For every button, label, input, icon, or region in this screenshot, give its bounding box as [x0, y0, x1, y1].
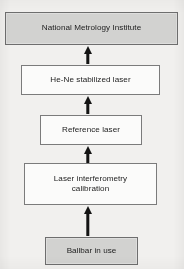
arrow-reference-to-hene-icon: [81, 96, 95, 114]
node-label: Reference laser: [60, 125, 122, 135]
node-he-ne-stabilized-laser[interactable]: He-Ne stabilized laser: [21, 65, 160, 95]
node-label: Ballbar in use: [65, 246, 119, 256]
arrow-ballbar-to-interferometry-icon: [81, 206, 95, 236]
flowchart-diagram: National Metrology Institute He-Ne stabi…: [0, 0, 184, 269]
node-reference-laser[interactable]: Reference laser: [40, 115, 142, 145]
node-laser-interferometry-calibration[interactable]: Laser interferometry calibration: [24, 163, 157, 205]
arrow-hene-to-nmi-icon: [81, 46, 95, 64]
node-label: Laser interferometry calibration: [52, 174, 129, 195]
node-label: National Metrology Institute: [40, 23, 143, 33]
arrow-interferometry-to-reference-icon: [81, 146, 95, 163]
node-label: He-Ne stabilized laser: [48, 75, 132, 85]
node-national-metrology-institute[interactable]: National Metrology Institute: [5, 12, 178, 45]
node-ballbar-in-use[interactable]: Ballbar in use: [45, 237, 138, 265]
